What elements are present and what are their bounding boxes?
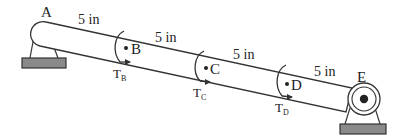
support-e-base — [340, 124, 386, 134]
point-label-e: E — [357, 69, 366, 85]
point-label-d: D — [291, 77, 302, 93]
segment-label-bc: 5 in — [155, 30, 176, 45]
support-a-base — [22, 58, 66, 68]
shaft-diagram: A B C D E 5 in 5 in 5 in 5 in TB TC TD — [0, 0, 407, 140]
torque-label-c: TC — [193, 85, 206, 102]
segment-label-de: 5 in — [314, 64, 335, 79]
segment-label-cd: 5 in — [233, 47, 254, 62]
point-label-c: C — [210, 61, 220, 77]
point-label-b: B — [131, 41, 141, 57]
point-label-a: A — [41, 4, 52, 20]
segment-label-ab: 5 in — [78, 12, 99, 27]
bearing-axle — [360, 95, 368, 103]
point-d-dot — [285, 82, 289, 86]
point-c-dot — [204, 66, 208, 70]
point-b-dot — [124, 46, 128, 50]
shaft — [31, 22, 352, 112]
torque-label-d: TD — [275, 100, 289, 117]
torque-label-b: TB — [113, 66, 126, 83]
